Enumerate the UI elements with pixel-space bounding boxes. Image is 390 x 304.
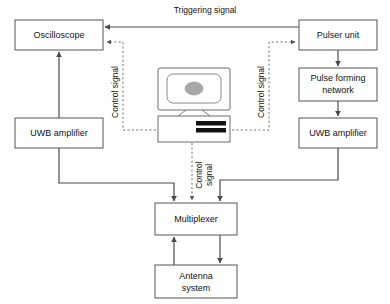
- keyboard-bar-top-icon: [196, 121, 226, 126]
- edge-uwb-right-to-multiplexer: [220, 148, 338, 201]
- keyboard-bar-bottom-icon: [196, 128, 226, 133]
- block-pulse-forming-network-label-line2: network: [322, 85, 354, 95]
- edge-label-control-signal-left: Control signal: [110, 66, 120, 118]
- block-multiplexer[interactable]: Multiplexer: [155, 203, 237, 235]
- block-pulser-unit[interactable]: Pulser unit: [299, 20, 377, 50]
- block-antenna-system-label-line2: system: [182, 283, 211, 293]
- edge-label-control-signal-middle-line1: Control: [194, 161, 204, 189]
- block-oscilloscope-label: Oscilloscope: [33, 30, 84, 40]
- block-uwb-amplifier-right-label: UWB amplifier: [309, 128, 367, 138]
- block-antenna-system-label-line1: Antenna: [179, 271, 213, 281]
- monitor-stand-icon: [178, 110, 210, 116]
- block-uwb-amplifier-right[interactable]: UWB amplifier: [299, 118, 377, 148]
- edge-label-control-signal-right: Control signal: [256, 66, 266, 118]
- block-oscilloscope[interactable]: Oscilloscope: [15, 20, 103, 50]
- control-computer[interactable]: [158, 68, 230, 142]
- block-antenna-system[interactable]: Antenna system: [155, 265, 237, 298]
- screen-waveform-blob-icon: [185, 82, 203, 95]
- block-diagram: Oscilloscope UWB amplifier Pulser unit P…: [0, 0, 390, 304]
- block-pulse-forming-network-label-line1: Pulse forming: [310, 73, 365, 83]
- block-pulse-forming-network[interactable]: Pulse forming network: [299, 68, 377, 101]
- block-multiplexer-label: Multiplexer: [174, 214, 218, 224]
- block-uwb-amplifier-left[interactable]: UWB amplifier: [15, 118, 103, 148]
- block-uwb-amplifier-left-label: UWB amplifier: [30, 128, 88, 138]
- edge-uwb-left-to-multiplexer: [59, 148, 174, 201]
- edge-label-control-signal-middle-line2: signal: [204, 164, 214, 186]
- edge-label-triggering-signal: Triggering signal: [174, 5, 237, 15]
- block-pulser-unit-label: Pulser unit: [317, 30, 360, 40]
- diagram-canvas: Oscilloscope UWB amplifier Pulser unit P…: [0, 0, 390, 304]
